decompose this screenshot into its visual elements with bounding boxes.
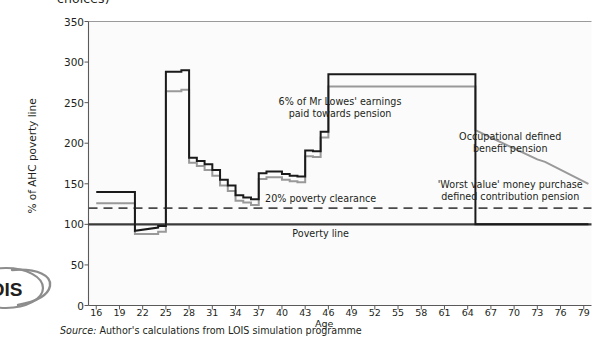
annotation-line: 20% poverty clearance — [265, 193, 376, 205]
annotation-line: benefit pension — [459, 143, 561, 155]
annotation-poverty-line-note: Poverty line — [292, 228, 349, 240]
plot-area — [0, 0, 592, 339]
annotation-line: defined contribution pension — [438, 191, 583, 203]
plot-background — [89, 22, 592, 306]
annotation-line: 'Worst value' money purchase — [438, 179, 583, 191]
annotation-contribution-note: 6% of Mr Lowes' earningspaid towards pen… — [279, 96, 402, 120]
annotation-line: Poverty line — [292, 228, 349, 240]
figure-container: choices) OIS % of AHC poverty line Age 0… — [0, 0, 592, 339]
annotation-money-purchase-note: 'Worst value' money purchasedefined cont… — [438, 179, 583, 203]
annotation-line: 6% of Mr Lowes' earnings — [279, 96, 402, 108]
source-note: Source: Author's calculations from LOIS … — [60, 325, 362, 336]
source-text: Author's calculations from LOIS simulati… — [99, 325, 361, 336]
annotation-line: paid towards pension — [279, 108, 402, 120]
source-label: Source: — [60, 325, 96, 336]
annotation-occupational-note: Occupational definedbenefit pension — [459, 131, 561, 155]
annotation-poverty-clearance-note: 20% poverty clearance — [265, 193, 376, 205]
annotation-line: Occupational defined — [459, 131, 561, 143]
